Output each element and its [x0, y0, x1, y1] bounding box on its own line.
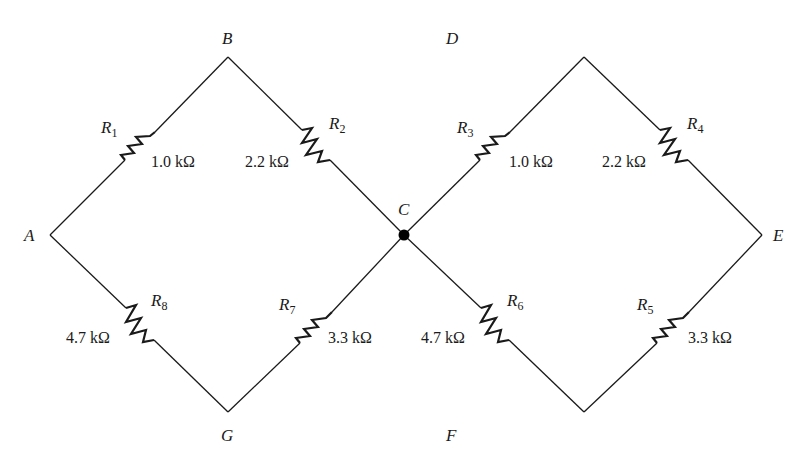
resistor-r5-value: 3.3 kΩ [688, 329, 732, 346]
resistor-r6-zigzag-icon [481, 305, 509, 342]
resistor-r2-zigzag-icon [302, 128, 330, 162]
resistor-r7-label: R7 [278, 295, 295, 317]
resistor-r4-value: 2.2 kΩ [602, 153, 646, 170]
branch-f-e [584, 235, 762, 412]
branch-b-c [228, 57, 404, 235]
resistor-r3-value: 1.0 kΩ [509, 153, 553, 170]
branch-d-e [584, 57, 762, 235]
resistor-r8-value: 4.7 kΩ [66, 329, 110, 346]
resistor-r7-value: 3.3 kΩ [328, 329, 372, 346]
resistor-r1-label: R1 [100, 118, 117, 140]
resistor-r3-zigzag-icon [476, 132, 510, 160]
resistor-r4-label: R4 [686, 114, 703, 136]
node-label-e: E [772, 226, 784, 245]
resistor-r8-zigzag-icon [126, 305, 154, 342]
node-label-b: B [222, 29, 233, 48]
resistor-r2-label: R2 [328, 114, 345, 136]
node-label-f: F [445, 426, 457, 445]
branch-g-a [50, 235, 228, 412]
resistor-r8-label: R8 [150, 291, 167, 313]
node-label-d: D [445, 29, 459, 48]
resistor-r1-value: 1.0 kΩ [151, 153, 195, 170]
branch-c-d [404, 57, 584, 235]
resistor-r2-value: 2.2 kΩ [245, 153, 289, 170]
resistor-r6-value: 4.7 kΩ [421, 329, 465, 346]
branch-a-b [50, 57, 228, 235]
resistor-r5-zigzag-icon [653, 312, 689, 343]
resistor-r3-label: R3 [456, 118, 473, 140]
resistor-r1-zigzag-icon [121, 132, 155, 160]
resistor-r7-zigzag-icon [296, 312, 332, 343]
resistor-r6-label: R6 [506, 291, 523, 313]
resistor-r4-zigzag-icon [660, 128, 688, 162]
resistor-r5-label: R5 [636, 295, 653, 317]
junction-dot-c-icon [399, 230, 410, 241]
branch-c-g [228, 235, 404, 412]
circuit-diagram: A B C D E F G R1 1.0 kΩ R2 2.2 kΩ R3 1.0… [0, 0, 809, 470]
branch-c-f [404, 235, 584, 412]
node-label-c: C [398, 200, 410, 219]
node-label-a: A [23, 226, 35, 245]
circuit-schematic: A B C D E F G R1 1.0 kΩ R2 2.2 kΩ R3 1.0… [0, 0, 809, 470]
node-label-g: G [221, 426, 233, 445]
